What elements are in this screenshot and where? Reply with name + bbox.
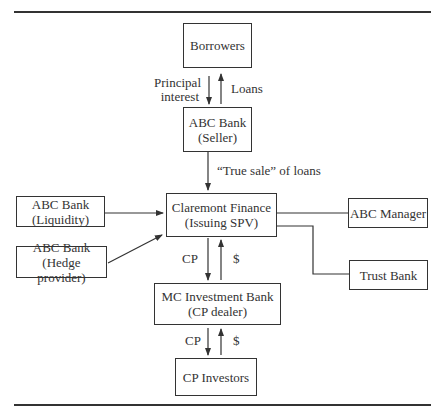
manager-box: ABC Manager <box>348 198 428 228</box>
spv-dollar-label: $ <box>233 252 240 266</box>
dealer-dollar-label: $ <box>233 334 240 348</box>
seller-label: ABC Bank <box>189 115 246 130</box>
true-sale-label: “True sale” of loans <box>217 164 321 178</box>
dealer-label: MC Investment Bank <box>162 289 274 304</box>
borrowers-label: Borrowers <box>190 38 245 53</box>
loans-label: Loans <box>231 82 263 96</box>
spv-box: Claremont Finance (Issuing SPV) <box>166 193 277 237</box>
dealer-box: MC Investment Bank (CP dealer) <box>154 283 281 325</box>
trust-label: Trust Bank <box>360 268 418 283</box>
hedge-role: (Hedge provider) <box>17 255 106 285</box>
principal-label: Principal interest <box>151 76 201 104</box>
liquidity-box: ABC Bank (Liquidity) <box>16 196 105 227</box>
seller-box: ABC Bank (Seller) <box>183 107 252 152</box>
liquidity-label: ABC Bank <box>32 197 89 212</box>
investors-box: CP Investors <box>175 358 257 396</box>
liquidity-role: (Liquidity) <box>32 212 89 227</box>
spv-label: Claremont Finance <box>172 200 271 215</box>
spv-role: (Issuing SPV) <box>185 215 258 230</box>
borrowers-box: Borrowers <box>183 23 252 68</box>
spv-cp-label: CP <box>182 252 198 266</box>
seller-role: (Seller) <box>198 130 237 145</box>
hedge-label: ABC Bank <box>33 240 90 255</box>
investors-label: CP Investors <box>183 370 249 385</box>
hedge-box: ABC Bank (Hedge provider) <box>16 246 107 278</box>
manager-label: ABC Manager <box>350 206 426 221</box>
dealer-role: (CP dealer) <box>188 304 247 319</box>
dealer-cp-label: CP <box>185 334 201 348</box>
trust-box: Trust Bank <box>349 260 428 290</box>
